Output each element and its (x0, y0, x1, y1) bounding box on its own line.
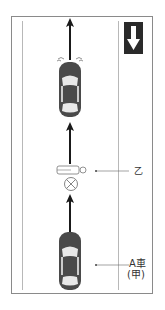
car-a-icon (55, 231, 85, 293)
pedestrian-leader-line (95, 169, 135, 173)
lane-line-left (22, 21, 23, 290)
car-a-label: A車 (129, 259, 146, 269)
lead-car-icon (55, 56, 85, 118)
one-way-sign (124, 22, 143, 54)
lane-line-right (118, 21, 119, 290)
direction-arrow-icon (60, 120, 80, 168)
car-a-sublabel: (甲) (127, 270, 145, 280)
pedestrian-icon (55, 163, 89, 177)
pedestrian-label: 乙 (134, 166, 143, 176)
car-a-leader-line (95, 263, 131, 267)
down-arrow-icon (124, 22, 143, 54)
collision-marker-icon (63, 176, 79, 192)
